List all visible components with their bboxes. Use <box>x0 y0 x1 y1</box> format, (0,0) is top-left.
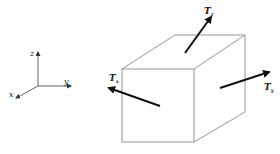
traction-left-label: Tx <box>109 73 120 84</box>
cube-right-face <box>194 35 245 142</box>
cube-top-face <box>122 35 245 69</box>
z-axis-label: z <box>29 49 35 58</box>
cube <box>122 35 245 142</box>
traction-right-arrow <box>220 72 269 88</box>
x-axis <box>16 86 38 98</box>
traction-right-label: Ty <box>264 82 275 94</box>
y-axis-label: y <box>63 77 69 86</box>
traction-left-arrow <box>109 88 160 106</box>
cube-traction-diagram: z y x Tz Ty Tx <box>0 0 280 154</box>
coordinate-axes: z y x <box>9 49 71 99</box>
x-axis-label: x <box>9 90 14 99</box>
traction-top-label: Tz <box>204 6 214 17</box>
